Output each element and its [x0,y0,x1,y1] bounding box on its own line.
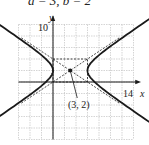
x-tick-label: 14 [123,88,133,99]
x-axis-label: x [139,88,145,99]
center-label: (3, 2) [68,99,90,111]
hyperbola-chart: y 10 14 x (3, 2) [0,0,149,145]
axes [19,15,141,139]
y-tick-label: 10 [38,22,48,33]
y-axis-label: y [48,12,54,23]
